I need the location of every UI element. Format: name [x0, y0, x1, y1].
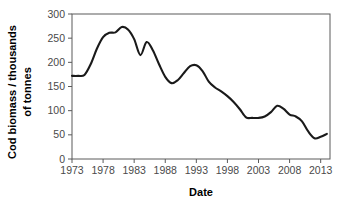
x-tick-label: 1998 [216, 164, 240, 176]
y-tick-label: 250 [47, 32, 65, 44]
x-tick-label: 2008 [278, 164, 302, 176]
x-tick-label: 2003 [247, 164, 271, 176]
chart-container: 050100150200250300 197319781983198819931… [0, 0, 342, 206]
y-tick-label: 300 [47, 8, 65, 20]
x-tick-label: 2013 [309, 164, 333, 176]
x-tick-label: 1978 [91, 164, 115, 176]
x-tick-label: 1988 [154, 164, 178, 176]
x-tick-label: 1973 [60, 164, 84, 176]
y-tick-label: 100 [47, 104, 65, 116]
y-tick-label: 150 [47, 80, 65, 92]
y-axis: 050100150200250300 [47, 8, 72, 165]
y-tick-label: 0 [59, 153, 65, 165]
x-axis-title: Date [189, 186, 213, 198]
plot-area-border [72, 14, 330, 159]
x-axis: 197319781983198819931998200320082013 [60, 159, 332, 176]
y-tick-label: 50 [53, 128, 65, 140]
y-tick-label: 200 [47, 56, 65, 68]
x-tick-label: 1993 [185, 164, 209, 176]
cod-biomass-line-chart: 050100150200250300 197319781983198819931… [0, 0, 342, 206]
y-axis-title-line1: Cod biomass / thousands [6, 25, 18, 159]
x-tick-label: 1983 [122, 164, 146, 176]
y-axis-title-line2: of tonnes [21, 67, 33, 117]
data-series-line [72, 27, 327, 139]
